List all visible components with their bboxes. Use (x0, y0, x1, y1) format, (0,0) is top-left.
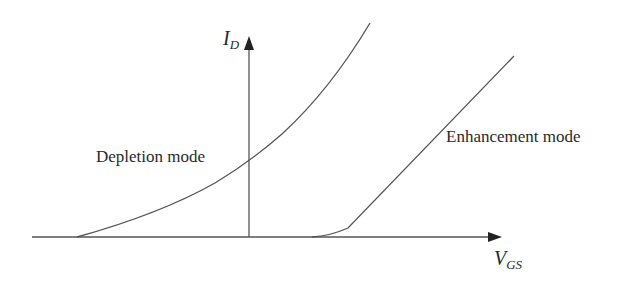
y-axis-arrowhead-icon (244, 36, 254, 50)
enhancement-mode-label: Enhancement mode (446, 127, 581, 147)
x-axis-label-sub: GS (506, 257, 522, 272)
x-axis-label: VGS (494, 247, 522, 273)
x-axis-arrowhead-icon (488, 232, 502, 242)
mosfet-diagram: ID VGS Depletion mode Enhancement mode (0, 0, 637, 283)
y-axis-label: ID (223, 27, 239, 53)
x-axis-label-main: V (494, 247, 506, 269)
depletion-mode-label: Depletion mode (96, 147, 205, 167)
depletion-mode-curve (77, 23, 370, 237)
y-axis-label-sub: D (230, 37, 239, 52)
y-axis-label-main: I (223, 27, 230, 49)
